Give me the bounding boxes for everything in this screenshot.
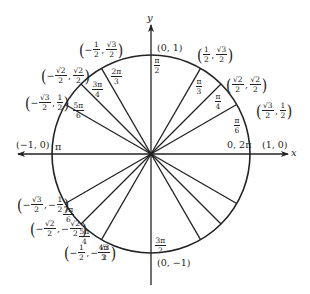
y-coordinate-5pi4-den: 2 <box>73 229 78 237</box>
comma: , <box>68 71 71 81</box>
x-axis-label: x <box>291 148 297 158</box>
close-paren: ) <box>287 102 292 118</box>
y-coordinate-5pi4: √22 <box>70 220 82 237</box>
angle-fraction-pi3-den: 3 <box>197 87 202 95</box>
open-paren: ( <box>79 41 84 57</box>
x-coordinate-7pi6: √32 <box>31 196 43 213</box>
point-label-4pi3: (−12,−√32) <box>64 244 116 261</box>
unit-circle-diagram: y x (1, 0) 0, 2π (0, 1) π2 (−1, 0) π (0,… <box>0 0 310 294</box>
close-paren: ) <box>85 67 90 83</box>
point-label-pi3: (12,√32) <box>197 46 233 63</box>
y-coordinate-pi4-num: √2 <box>250 76 262 85</box>
close-paren: ) <box>118 41 123 57</box>
x-sign: − <box>35 224 43 234</box>
x-coordinate-3pi4-num: √2 <box>55 67 67 76</box>
y-coordinate-pi4-den: 2 <box>253 85 258 93</box>
x-coordinate-2pi3-den: 2 <box>94 50 99 58</box>
angle-label-pi6: π6 <box>233 117 241 134</box>
angle-fraction-3pi4: 3π4 <box>92 81 104 98</box>
y-axis-label: y <box>147 13 153 23</box>
x-sign: − <box>84 45 92 55</box>
angle-fraction-pi3: π3 <box>196 78 203 95</box>
open-paren: ( <box>226 76 231 92</box>
y-coordinate-4pi3: √32 <box>99 244 111 261</box>
x-coordinate-pi4: √22 <box>232 76 244 93</box>
angle-fraction-5pi6: 5π6 <box>73 102 85 119</box>
x-coordinate-pi4-num: √2 <box>232 76 244 85</box>
x-coordinate-pi3: 12 <box>203 46 210 63</box>
angle-fraction-pi4-den: 4 <box>216 102 221 110</box>
point-label-pi4: (√22,√22) <box>226 76 267 93</box>
angle-fraction-pi3-num: π <box>196 78 203 87</box>
point-label-5pi6: (−√32,12) <box>25 94 69 111</box>
x-coordinate-5pi6-den: 2 <box>42 103 47 111</box>
angle-fraction-2pi3-den: 3 <box>114 77 119 85</box>
angle-fraction-2pi3: 2π3 <box>111 68 123 85</box>
point-label-3pi4: (−√22,√22) <box>41 67 90 84</box>
y-coordinate-3pi4-num: √2 <box>73 67 85 76</box>
x-coordinate-pi6-den: 2 <box>265 111 270 119</box>
x-sign: − <box>22 200 30 210</box>
open-paren: ( <box>256 102 261 118</box>
point-label-pi: (−1, 0) <box>16 140 50 150</box>
close-paren: ) <box>262 76 267 92</box>
angle-fraction-pi6: π6 <box>234 117 241 134</box>
comma: , <box>101 45 104 55</box>
angle-label-pi: π <box>55 142 61 152</box>
x-coordinate-3pi4-den: 2 <box>58 76 63 84</box>
point-label-2pi3: (−12,√32) <box>79 41 123 58</box>
y-coordinate-3pi4-den: 2 <box>76 76 81 84</box>
point-label-5pi4: (−√22,−√22) <box>30 220 87 237</box>
point-label-0: (1, 0) <box>262 140 288 150</box>
x-coordinate-5pi4: √22 <box>44 220 56 237</box>
y-coordinate-pi6-num: 1 <box>280 102 287 111</box>
y-coordinate-pi3-den: 2 <box>219 55 224 63</box>
angle-fraction-3pi4-den: 4 <box>95 90 100 98</box>
open-paren: ( <box>64 244 69 260</box>
x-coordinate-5pi6: √32 <box>39 94 51 111</box>
angle-label-pi3: π3 <box>195 78 203 95</box>
open-paren: ( <box>197 46 202 62</box>
close-paren: ) <box>82 220 87 236</box>
y-coordinate-4pi3-num: √3 <box>99 244 111 253</box>
point-label-7pi6: (−√32,−12) <box>17 196 69 213</box>
point-label-pi2: (0, 1) <box>157 43 183 53</box>
y-coordinate-pi6: 12 <box>280 102 287 119</box>
comma: , <box>57 224 60 234</box>
y-coordinate-pi4: √22 <box>250 76 262 93</box>
x-coordinate-5pi4-den: 2 <box>47 229 52 237</box>
angle-label-3pi2: 3π2 <box>154 237 167 254</box>
x-coordinate-5pi6-num: √3 <box>39 94 51 103</box>
x-coordinate-2pi3: 12 <box>93 41 100 58</box>
y-coordinate-7pi6-num: 1 <box>57 196 64 205</box>
point-label-3pi2: (0, −1) <box>157 258 191 268</box>
x-coordinate-pi3-den: 2 <box>204 55 209 63</box>
angle-label-pi2: π2 <box>153 57 161 74</box>
x-coordinate-7pi6-num: √3 <box>31 196 43 205</box>
angle-fraction-2pi3-num: 2π <box>111 68 123 77</box>
y-sign: − <box>48 200 56 210</box>
y-coordinate-2pi3: √32 <box>106 41 118 58</box>
x-coordinate-pi6: √32 <box>262 102 274 119</box>
x-coordinate-5pi4-num: √2 <box>44 220 56 229</box>
y-coordinate-pi3: √32 <box>216 46 228 63</box>
open-paren: ( <box>25 94 30 110</box>
angle-label-pi4: π4 <box>214 93 222 110</box>
x-coordinate-7pi6-den: 2 <box>34 205 39 213</box>
close-paren: ) <box>64 196 69 212</box>
x-coordinate-4pi3: 12 <box>78 244 85 261</box>
x-coordinate-pi3-num: 1 <box>203 46 210 55</box>
angle-fraction-3pi4-num: 3π <box>92 81 104 90</box>
x-coordinate-pi4-den: 2 <box>235 85 240 93</box>
open-paren: ( <box>41 67 46 83</box>
angle-label-0: 0, 2π <box>227 140 251 150</box>
angle-label-5pi6: 5π6 <box>72 102 85 119</box>
angle-fraction-pi4-num: π <box>215 93 222 102</box>
comma: , <box>211 50 214 60</box>
angle-fraction-pi4: π4 <box>215 93 222 110</box>
y-sign: − <box>90 248 98 258</box>
comma: , <box>52 98 55 108</box>
comma: , <box>44 200 47 210</box>
origin-dot <box>149 152 153 156</box>
close-paren: ) <box>64 94 69 110</box>
